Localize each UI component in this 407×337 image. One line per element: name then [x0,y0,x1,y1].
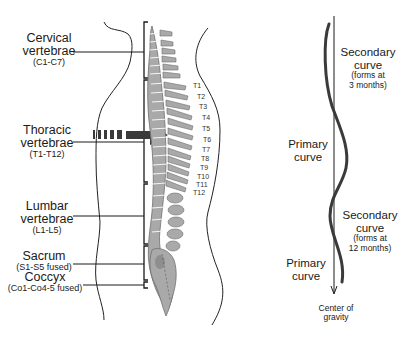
t1-label: T1 [193,82,201,89]
t4-label: T4 [202,114,210,121]
primary-lower-title: Primary [284,257,328,270]
primary-upper-title: Primary [286,138,330,151]
t5-label: T5 [202,125,210,132]
t2-label: T2 [197,93,205,100]
primary-curve-lower-label: Primary curve [284,257,328,282]
gravity-line2: gravity [314,313,358,322]
secondary-curve-upper-label: Secondary curve (forms at 3 months) [338,46,398,90]
leader-lines [73,52,144,285]
t3-label: T3 [199,103,207,110]
coccyx-range: (Co1-Co4-5 fused) [6,284,84,293]
t6-label: T6 [203,136,211,143]
lumbar-label: Lumbar vertebrae (L1-L5) [20,200,74,236]
t8-label: T8 [201,155,209,162]
secondary-curve-lower-label: Secondary curve (forms at 12 months) [338,209,402,253]
t11-label: T11 [196,181,208,188]
secondary-upper-title: Secondary [338,46,398,59]
secondary-lower-title: Secondary [338,209,402,222]
region-brackets [144,22,148,288]
cervical-label: Cervical vertebrae (C1-C7) [22,32,76,68]
cervical-range: (C1-C7) [22,58,76,67]
t10-label: T10 [197,173,209,180]
coccyx-label: Coccyx (Co1-Co4-5 fused) [6,271,84,294]
primary-upper-line2: curve [286,151,330,164]
t9-label: T9 [200,164,208,171]
lumbar-range: (L1-L5) [20,226,74,235]
center-of-gravity-label: Center of gravity [314,304,358,323]
vertebral-column [148,26,193,316]
primary-curve-upper-label: Primary curve [286,138,330,163]
t12-label: T12 [193,189,205,196]
primary-lower-line2: curve [284,270,328,283]
t7-label: T7 [202,146,210,153]
thoracic-range: (T1-T12) [20,150,74,159]
secondary-upper-note2: 3 months) [338,81,398,90]
secondary-lower-note2: 12 months) [338,244,402,253]
thoracic-label: Thoracic vertebrae (T1-T12) [20,124,74,160]
body-back-outline [96,22,132,320]
